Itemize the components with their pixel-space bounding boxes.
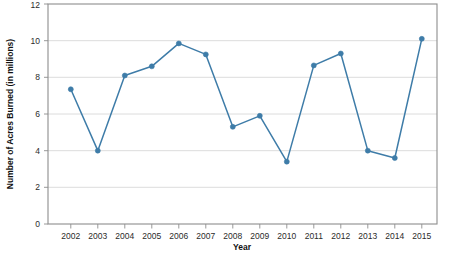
data-point-2006 bbox=[176, 41, 181, 46]
x-tick-label-2006: 2006 bbox=[169, 231, 188, 241]
chart-svg: 0 2 4 6 8 10 12 Number of Acres Burned (… bbox=[0, 0, 452, 255]
data-point-2008 bbox=[230, 124, 235, 129]
x-tick-label-2010: 2010 bbox=[277, 231, 296, 241]
data-point-2003 bbox=[95, 148, 100, 153]
x-tick-label-2009: 2009 bbox=[250, 231, 269, 241]
y-tick-label-6: 6 bbox=[35, 109, 40, 119]
x-tick-label-2014: 2014 bbox=[385, 231, 404, 241]
x-tick-label-2013: 2013 bbox=[358, 231, 377, 241]
x-tick-label-2015: 2015 bbox=[412, 231, 431, 241]
data-point-2004 bbox=[122, 73, 127, 78]
x-tick-label-2007: 2007 bbox=[196, 231, 215, 241]
data-point-2012 bbox=[338, 51, 343, 56]
x-tick-label-2011: 2011 bbox=[305, 231, 324, 241]
data-point-2005 bbox=[149, 64, 154, 69]
y-tick-label-2: 2 bbox=[35, 182, 40, 192]
y-tick-label-8: 8 bbox=[35, 72, 40, 82]
data-point-2007 bbox=[203, 52, 208, 57]
y-tick-label-12: 12 bbox=[31, 0, 41, 10]
y-tick-label-10: 10 bbox=[31, 36, 41, 46]
data-point-2009 bbox=[257, 113, 262, 118]
x-tick-label-2012: 2012 bbox=[331, 231, 350, 241]
data-point-2002 bbox=[68, 87, 73, 92]
y-axis-title: Number of Acres Burned (in millions) bbox=[5, 39, 15, 190]
line-chart: 0 2 4 6 8 10 12 Number of Acres Burned (… bbox=[0, 0, 452, 255]
x-tick-label-2005: 2005 bbox=[142, 231, 161, 241]
data-point-2014 bbox=[392, 156, 397, 161]
y-tick-label-4: 4 bbox=[35, 146, 40, 156]
x-tick-label-2004: 2004 bbox=[115, 231, 134, 241]
data-point-2015 bbox=[419, 36, 424, 41]
y-tick-label-0: 0 bbox=[35, 219, 40, 229]
x-tick-label-2008: 2008 bbox=[223, 231, 242, 241]
x-tick-label-2003: 2003 bbox=[88, 231, 107, 241]
x-tick-label-2002: 2002 bbox=[61, 231, 80, 241]
chart-background bbox=[0, 0, 452, 255]
data-point-2013 bbox=[365, 148, 370, 153]
data-point-2010 bbox=[284, 159, 289, 164]
data-point-2011 bbox=[311, 63, 316, 68]
x-axis-title: Year bbox=[233, 242, 252, 252]
